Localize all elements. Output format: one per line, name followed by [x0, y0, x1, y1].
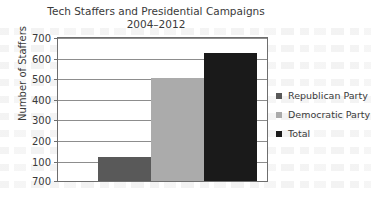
chart-title-main: Tech Staffers and Presidential Campaigns: [46, 5, 266, 18]
y-tick-label-300: 300: [32, 115, 51, 126]
bar-democratic-party[interactable]: [151, 78, 204, 181]
legend-item-democratic-party[interactable]: Democratic Party: [276, 105, 370, 124]
bar-republican-party[interactable]: [98, 157, 151, 182]
legend-label-republican-party: Republican Party: [288, 90, 368, 101]
legend-swatch-icon-republican-party: [276, 93, 282, 99]
y-tick-label-200: 200: [32, 136, 51, 147]
bar-series: [58, 38, 267, 181]
y-tick-label-500: 500: [32, 74, 51, 85]
plot-area: 700 600 500 400 300 200 100 700: [57, 37, 268, 182]
legend-item-republican-party[interactable]: Republican Party: [276, 86, 370, 105]
legend-swatch-icon-total: [276, 131, 282, 137]
y-tick-label-400: 400: [32, 94, 51, 105]
bar-total[interactable]: [204, 53, 257, 181]
y-tick-label-700: 700: [32, 33, 51, 44]
legend-label-democratic-party: Democratic Party: [288, 109, 370, 120]
y-tick-label-baseline: 700: [32, 176, 51, 187]
legend-swatch-icon-democratic-party: [276, 112, 282, 118]
y-tick-label-100: 100: [32, 156, 51, 167]
chart-legend: Republican Party Democratic Party Total: [276, 86, 370, 143]
axis-baseline: 700: [58, 181, 267, 182]
y-tick-label-600: 600: [32, 53, 51, 64]
chart-title-subtitle: 2004–2012: [46, 18, 266, 31]
legend-label-total: Total: [288, 128, 310, 139]
bar-chart: Tech Staffers and Presidential Campaigns…: [0, 0, 371, 207]
y-axis-title: Number of Staffers: [17, 14, 28, 134]
chart-title: Tech Staffers and Presidential Campaigns…: [46, 5, 266, 31]
legend-item-total[interactable]: Total: [276, 124, 370, 143]
